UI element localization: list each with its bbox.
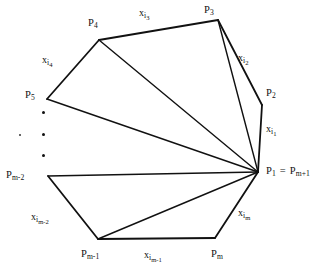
ellipsis-speck bbox=[19, 134, 21, 136]
vertex-label-p4-sub: 4 bbox=[94, 21, 98, 30]
diagonal-p1-pm2 bbox=[48, 172, 258, 176]
edge-label-xi2-subsub: 2 bbox=[245, 59, 248, 66]
diagonal-p1-pm1 bbox=[98, 172, 258, 239]
edge-p1-p2 bbox=[258, 105, 262, 172]
vertex-label-pm-1: Pm-1 bbox=[81, 249, 99, 261]
vertex-label-pm-sub: m bbox=[217, 252, 223, 261]
edge-label-xim-2: xim-2 bbox=[31, 212, 49, 226]
diagonal-p1-p5 bbox=[47, 99, 258, 172]
figure-canvas: P4 P3 P2 P5 P1=Pm+1 Pm-2 Pm-1 Pm xi3 xi2… bbox=[0, 0, 326, 280]
vertex-label-p2: P2 bbox=[266, 88, 276, 100]
vertex-label-p5-sub: 5 bbox=[31, 93, 35, 102]
vertex-label-p1-sub2: m+1 bbox=[296, 169, 310, 178]
edge-label-xim-1: xim-1 bbox=[144, 250, 162, 264]
edge-label-xim: xim bbox=[238, 208, 250, 222]
vertex-label-p4: P4 bbox=[88, 18, 98, 30]
edge-pm-p1 bbox=[215, 172, 258, 238]
edge-label-xi4: xi4 bbox=[42, 55, 53, 69]
vertex-label-p5: P5 bbox=[25, 90, 35, 102]
edge-label-xi2: xi2 bbox=[238, 53, 249, 67]
edge-label-xim-subsub: m bbox=[245, 214, 250, 221]
vertex-label-p1-equals: = bbox=[280, 165, 286, 176]
diagonal-p1-p3 bbox=[218, 20, 258, 172]
edge-label-xi1: xi1 bbox=[266, 124, 277, 138]
vertex-label-p3-sub: 3 bbox=[210, 8, 214, 17]
vertex-label-pm-1-sub: m-1 bbox=[87, 252, 99, 261]
edge-p3-p4 bbox=[99, 20, 218, 40]
vertex-label-pm-2-sub: m-2 bbox=[12, 173, 24, 182]
edge-label-xim-1-subsub: m-1 bbox=[151, 256, 162, 263]
vertex-label-p2-sub: 2 bbox=[272, 91, 276, 100]
vertex-label-p1-sub: 1 bbox=[272, 169, 276, 178]
edge-label-xi3-subsub: 3 bbox=[146, 14, 149, 21]
edge-pm2-pm1 bbox=[48, 176, 98, 239]
edge-pm1-pm bbox=[98, 238, 215, 239]
polygon-triangulation-svg bbox=[0, 0, 326, 280]
edge-label-xi4-subsub: 4 bbox=[49, 61, 52, 68]
vertex-label-pm: Pm bbox=[211, 249, 223, 261]
vertex-label-p3: P3 bbox=[204, 5, 214, 17]
diagonal-p1-p4 bbox=[99, 40, 258, 172]
edge-label-xi1-subsub: 1 bbox=[273, 130, 276, 137]
vertex-label-p1: P1=Pm+1 bbox=[266, 166, 310, 178]
edge-p4-p5 bbox=[47, 40, 99, 99]
vertex-label-pm-2: Pm-2 bbox=[6, 170, 24, 182]
edge-label-xim-2-subsub: m-2 bbox=[38, 218, 49, 225]
edge-label-xi3: xi3 bbox=[139, 8, 150, 22]
